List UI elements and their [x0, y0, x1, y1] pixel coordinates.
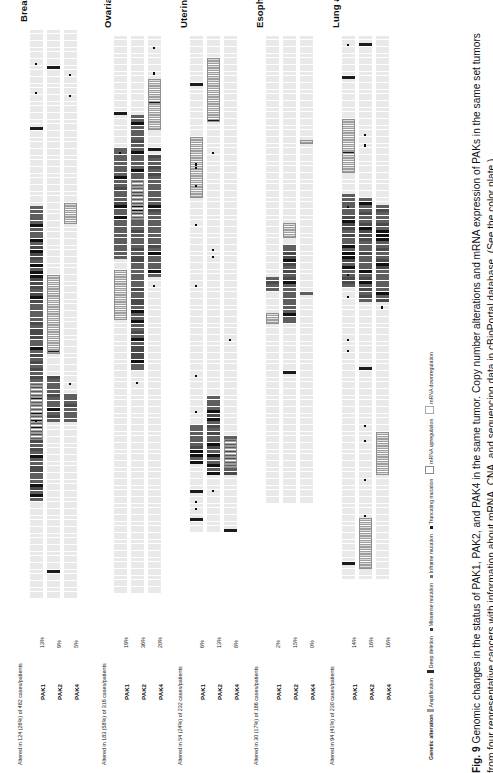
- oncoprint-cell: [300, 198, 313, 201]
- oncoprint-cell: [376, 396, 389, 399]
- oncoprint-cell: [359, 353, 372, 356]
- oncoprint-cell: [359, 410, 372, 413]
- oncoprint-cell: [359, 558, 372, 561]
- oncoprint-cell: [207, 335, 220, 338]
- oncoprint-cell: [148, 562, 161, 565]
- oncoprint-cell: [114, 396, 127, 399]
- oncoprint-cell: [224, 266, 237, 269]
- oncoprint-cell: [47, 383, 60, 386]
- oncoprint-cell: [376, 360, 389, 363]
- oncoprint-cell: [300, 346, 313, 349]
- oncoprint-cell: [207, 83, 220, 86]
- oncoprint-cell: [148, 342, 161, 345]
- oncoprint-cell: [190, 446, 203, 449]
- oncoprint-cell: [64, 430, 77, 433]
- oncoprint-cell: [148, 209, 161, 212]
- oncoprint-cell: [376, 288, 389, 291]
- oncoprint-cell: [114, 443, 127, 446]
- oncoprint-cell: [342, 526, 355, 529]
- oncoprint-cell: [47, 404, 60, 407]
- oncoprint-cell: [190, 126, 203, 129]
- oncoprint-cell: [207, 313, 220, 316]
- oncoprint-cell: [190, 166, 203, 169]
- oncoprint-cell: [64, 491, 77, 494]
- oncoprint-cell: [114, 112, 127, 115]
- oncoprint-cell: [190, 414, 203, 417]
- oncoprint-cell: [266, 486, 279, 489]
- oncoprint-cell: [207, 428, 220, 431]
- oncoprint-cell: [342, 346, 355, 349]
- oncoprint-cell: [47, 437, 60, 440]
- oncoprint-cell: [224, 428, 237, 431]
- oncoprint-cell: [207, 497, 220, 500]
- gene-percent-pak4: 20%: [157, 637, 163, 648]
- oncoprint-cell: [190, 475, 203, 478]
- oncoprint-cell: [359, 284, 372, 287]
- oncoprint-cell: [131, 317, 144, 320]
- oncoprint-cell: [342, 68, 355, 71]
- oncoprint-cell: [359, 65, 372, 68]
- oncoprint-cell: [114, 529, 127, 532]
- oncoprint-cell: [47, 556, 60, 559]
- oncoprint-cell: [64, 332, 77, 335]
- oncoprint-cell: [300, 47, 313, 50]
- oncoprint-cell: [342, 79, 355, 82]
- oncoprint-cell: [30, 167, 43, 170]
- oncoprint-cell: [224, 324, 237, 327]
- oncoprint-cell: [266, 320, 279, 323]
- oncoprint-cell: [114, 446, 127, 449]
- oncoprint-cell: [114, 331, 127, 334]
- oncoprint-cell: [342, 364, 355, 367]
- oncoprint-cell: [114, 461, 127, 464]
- oncoprint-cell: [359, 180, 372, 183]
- oncoprint-cell: [30, 192, 43, 195]
- oncoprint-cell: [131, 450, 144, 453]
- oncoprint-cell: [47, 444, 60, 447]
- oncoprint-cell: [266, 299, 279, 302]
- oncoprint-cell: [47, 552, 60, 555]
- oncoprint-cell: [376, 76, 389, 79]
- oncoprint-cell: [190, 396, 203, 399]
- oncoprint-cell: [207, 482, 220, 485]
- oncoprint-cell: [376, 202, 389, 205]
- oncoprint-cell: [359, 562, 372, 565]
- oncoprint-cell: [64, 545, 77, 548]
- figure-caption-text: Genomic changes in the status of PAK1, P…: [471, 33, 493, 773]
- oncoprint-cell: [30, 368, 43, 371]
- oncoprint-cell: [47, 138, 60, 141]
- oncoprint-cell: [266, 446, 279, 449]
- oncoprint-cell: [207, 169, 220, 172]
- oncoprint-cell: [359, 497, 372, 500]
- oncoprint-cell: [30, 73, 43, 76]
- oncoprint-cell: [359, 230, 372, 233]
- oncoprint-cell: [114, 274, 127, 277]
- oncoprint-cell: [266, 245, 279, 248]
- oncoprint-cell: [283, 342, 296, 345]
- oncoprint-cell: [207, 446, 220, 449]
- oncoprint-cell: [359, 144, 372, 147]
- oncoprint-cell: [300, 324, 313, 327]
- oncoprint-cell: [148, 202, 161, 205]
- oncoprint-cell: [148, 367, 161, 370]
- oncoprint-cell: [114, 558, 127, 561]
- oncoprint-cell: [342, 353, 355, 356]
- oncoprint-cell: [300, 162, 313, 165]
- oncoprint-track-pak1: [190, 36, 203, 536]
- oncoprint-cell: [300, 292, 313, 295]
- oncoprint-cell: [131, 432, 144, 435]
- oncoprint-cell: [300, 472, 313, 475]
- oncoprint-cell: [148, 533, 161, 536]
- oncoprint-cell: [30, 458, 43, 461]
- oncoprint-cell: [376, 259, 389, 262]
- oncoprint-cell: [342, 367, 355, 370]
- oncoprint-cell: [30, 196, 43, 199]
- oncoprint-cell: [114, 587, 127, 590]
- oncoprint-cell: [207, 504, 220, 507]
- oncoprint-cell: [190, 493, 203, 496]
- mutation-marker: [136, 382, 138, 384]
- oncoprint-cell: [148, 212, 161, 215]
- oncoprint-cell: [376, 209, 389, 212]
- oncoprint-cell: [359, 288, 372, 291]
- oncoprint-cell: [148, 511, 161, 514]
- oncoprint-cell: [148, 522, 161, 525]
